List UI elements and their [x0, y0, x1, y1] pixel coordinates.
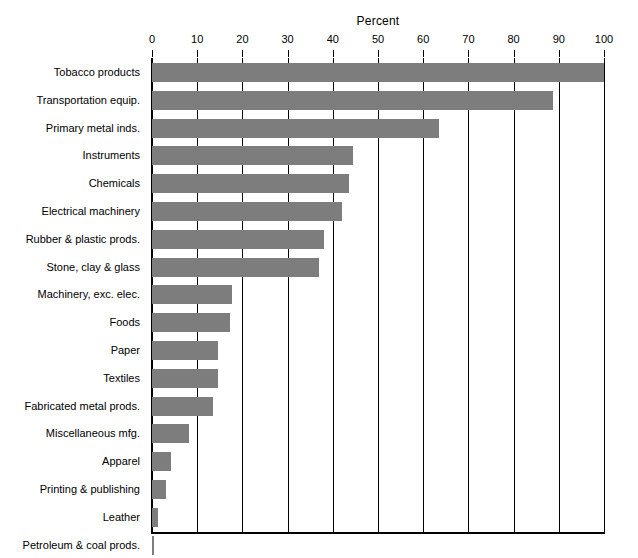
- category-label: Stone, clay & glass: [0, 258, 146, 277]
- x-tick-label: 50: [372, 33, 384, 45]
- plot-area: [152, 58, 604, 533]
- category-label: Leather: [0, 508, 146, 527]
- bar: [152, 146, 353, 165]
- category-label: Instruments: [0, 146, 146, 165]
- bar: [152, 397, 213, 416]
- bar: [152, 480, 166, 499]
- x-tick-label: 70: [462, 33, 474, 45]
- bar: [152, 285, 232, 304]
- category-label: Foods: [0, 313, 146, 332]
- x-tick-mark: [423, 50, 424, 57]
- gridline: [468, 58, 469, 533]
- x-tick-label: 80: [507, 33, 519, 45]
- gridline: [604, 58, 605, 533]
- bar: [152, 174, 349, 193]
- bar: [152, 119, 439, 138]
- bar: [152, 202, 342, 221]
- bar: [152, 258, 319, 277]
- x-tick-mark: [152, 50, 153, 57]
- x-tick-mark: [468, 50, 469, 57]
- gridline: [559, 58, 560, 533]
- x-tick-mark: [378, 50, 379, 57]
- category-label: Miscellaneous mfg.: [0, 424, 146, 443]
- x-tick-label: 30: [281, 33, 293, 45]
- bar: [152, 536, 154, 555]
- bar: [152, 508, 158, 527]
- x-axis-tick-marks: [0, 50, 638, 58]
- bar: [152, 424, 189, 443]
- category-label: Transportation equip.: [0, 91, 146, 110]
- bar: [152, 63, 604, 82]
- x-tick-label: 10: [191, 33, 203, 45]
- bar: [152, 230, 324, 249]
- category-label: Petroleum & coal prods.: [0, 536, 146, 555]
- category-label: Tobacco products: [0, 63, 146, 82]
- category-label: Printing & publishing: [0, 480, 146, 499]
- category-label: Electrical machinery: [0, 202, 146, 221]
- category-label: Rubber & plastic prods.: [0, 230, 146, 249]
- category-label: Textiles: [0, 369, 146, 388]
- x-axis-tick-labels: 0102030405060708090100: [0, 33, 638, 49]
- x-tick-mark: [333, 50, 334, 57]
- bar: [152, 313, 230, 332]
- x-tick-label: 60: [417, 33, 429, 45]
- category-label: Primary metal inds.: [0, 119, 146, 138]
- category-label: Machinery, exc. elec.: [0, 285, 146, 304]
- bar: [152, 452, 171, 471]
- chart-title: Percent: [152, 14, 604, 28]
- x-tick-mark: [288, 50, 289, 57]
- x-tick-mark: [242, 50, 243, 57]
- bar: [152, 91, 553, 110]
- bar: [152, 369, 218, 388]
- x-tick-label: 0: [149, 33, 155, 45]
- x-tick-mark: [604, 50, 605, 57]
- x-tick-mark: [197, 50, 198, 57]
- bar-chart: Percent 0102030405060708090100 Tobacco p…: [0, 0, 638, 558]
- x-tick-label: 20: [236, 33, 248, 45]
- x-tick-label: 40: [327, 33, 339, 45]
- category-label: Apparel: [0, 452, 146, 471]
- bar: [152, 341, 218, 360]
- category-label: Paper: [0, 341, 146, 360]
- category-label: Chemicals: [0, 174, 146, 193]
- y-axis-category-labels: Tobacco productsTransportation equip.Pri…: [0, 58, 146, 533]
- x-tick-label: 90: [553, 33, 565, 45]
- category-label: Fabricated metal prods.: [0, 397, 146, 416]
- gridline: [514, 58, 515, 533]
- x-tick-mark: [559, 50, 560, 57]
- x-tick-mark: [514, 50, 515, 57]
- x-tick-label: 100: [595, 33, 613, 45]
